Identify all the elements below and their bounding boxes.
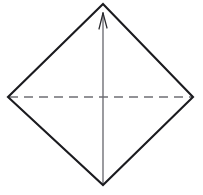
pyramid-figure [0, 0, 203, 195]
pyramid-diagram-svg [0, 0, 203, 195]
